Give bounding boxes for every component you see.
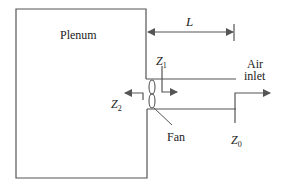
z0-label: Z0 <box>231 133 242 149</box>
air-inlet-label-line2: inlet <box>244 69 266 83</box>
fan-icon-lower <box>149 94 155 108</box>
plenum-fan-diagram: Plenum L Z1 Z2 Z0 Air inlet Fan <box>0 0 285 187</box>
plenum-label: Plenum <box>60 28 97 42</box>
z0-arrow <box>235 93 270 123</box>
length-label: L <box>185 14 193 29</box>
fan-leader-line <box>154 108 172 125</box>
z1-label: Z1 <box>156 54 167 70</box>
z2-arrow <box>125 93 143 100</box>
fan-icon <box>149 80 155 94</box>
fan-label: Fan <box>167 130 185 144</box>
z2-label: Z2 <box>111 97 122 113</box>
